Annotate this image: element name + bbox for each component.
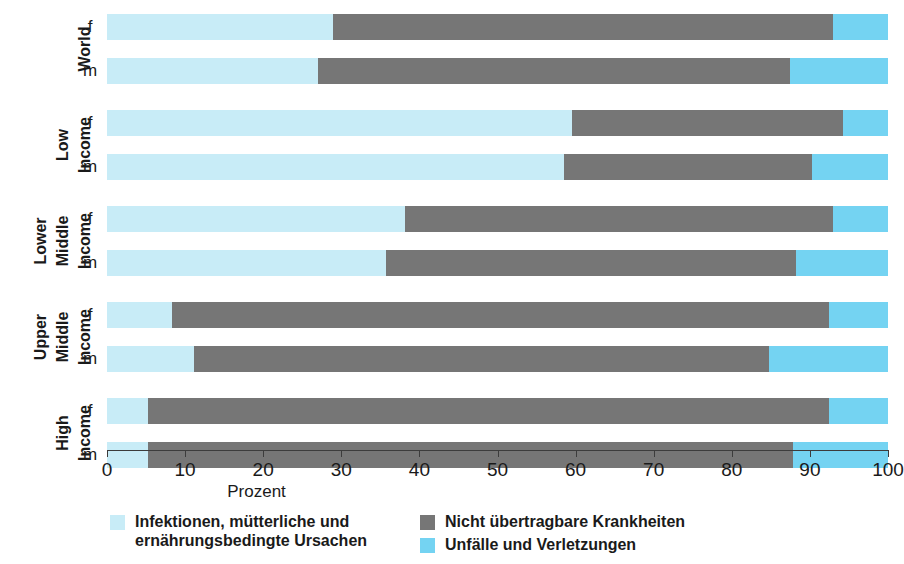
segment-infectious (107, 110, 572, 136)
segment-injuries (833, 206, 888, 232)
legend-item-injuries: Unfälle und Verletzungen (420, 535, 685, 554)
chart-legend: Infektionen, mütterliche und ernährungsb… (0, 512, 903, 564)
segment-infectious (107, 302, 172, 328)
x-tick (341, 450, 342, 457)
x-tick (263, 450, 264, 457)
group-label-line: Low (54, 95, 72, 195)
x-axis-title: Prozent (0, 482, 513, 502)
segment-injuries (843, 110, 888, 136)
x-tick (576, 450, 577, 457)
segment-noncommunicable (318, 58, 790, 84)
x-tick (419, 450, 420, 457)
segment-noncommunicable (148, 442, 792, 468)
bar-row (107, 14, 888, 40)
bar-row (107, 250, 888, 276)
segment-noncommunicable (564, 154, 812, 180)
x-tick-label: 50 (487, 459, 508, 481)
group-label-line: Lower (32, 191, 50, 291)
segment-infectious (107, 58, 318, 84)
legend-item-infectious-label: Infektionen, mütterliche und ernährungsb… (135, 512, 367, 550)
segment-infectious (107, 206, 405, 232)
x-tick-label: 0 (102, 459, 113, 481)
segment-injuries (796, 250, 888, 276)
plot-area (107, 6, 888, 450)
legend-item-infectious-swatch (110, 515, 125, 530)
segment-noncommunicable (386, 250, 796, 276)
segment-injuries (829, 302, 888, 328)
sex-label-f: f (80, 302, 100, 328)
segment-injuries (829, 398, 888, 424)
bar-row (107, 302, 888, 328)
segment-infectious (107, 398, 148, 424)
segment-infectious (107, 346, 194, 372)
legend-column-left: Infektionen, mütterliche und ernährungsb… (110, 512, 367, 554)
group-label-line: Middle (54, 191, 72, 291)
x-tick-label: 70 (643, 459, 664, 481)
sex-label-m: m (80, 250, 100, 276)
segment-noncommunicable (572, 110, 844, 136)
bar-row (107, 58, 888, 84)
legend-item-injuries-label: Unfälle und Verletzungen (445, 535, 636, 554)
legend-item-injuries-swatch (420, 538, 435, 553)
segment-infectious (107, 154, 564, 180)
x-tick (888, 450, 889, 457)
bar-row (107, 110, 888, 136)
sex-label-m: m (80, 346, 100, 372)
segment-injuries (833, 14, 888, 40)
bar-row (107, 346, 888, 372)
sex-label-f: f (80, 110, 100, 136)
x-tick (810, 450, 811, 457)
segment-noncommunicable (148, 398, 828, 424)
x-tick-label: 30 (331, 459, 352, 481)
x-tick (107, 450, 108, 457)
x-tick-label: 80 (721, 459, 742, 481)
x-tick (185, 450, 186, 457)
segment-injuries (790, 58, 888, 84)
segment-infectious (107, 442, 148, 468)
segment-noncommunicable (194, 346, 768, 372)
x-tick-label: 90 (799, 459, 820, 481)
bar-row (107, 206, 888, 232)
group-label-line: Upper (32, 287, 50, 387)
x-tick (732, 450, 733, 457)
legend-item-noncommunicable-label: Nicht übertragbare Krankheiten (445, 512, 685, 531)
legend-column-right: Nicht übertragbare KrankheitenUnfälle un… (420, 512, 685, 558)
sex-label-m: m (80, 442, 100, 468)
sex-label-f: f (80, 14, 100, 40)
x-tick-label: 20 (253, 459, 274, 481)
group-label-line: Middle (54, 287, 72, 387)
sex-label-m: m (80, 154, 100, 180)
x-tick-label: 10 (175, 459, 196, 481)
sex-label-m: m (80, 58, 100, 84)
x-tick (498, 450, 499, 457)
segment-injuries (812, 154, 888, 180)
segment-noncommunicable (333, 14, 832, 40)
segment-injuries (769, 346, 888, 372)
segment-infectious (107, 250, 386, 276)
legend-item-noncommunicable: Nicht übertragbare Krankheiten (420, 512, 685, 531)
x-tick-label: 40 (409, 459, 430, 481)
legend-item-noncommunicable-swatch (420, 515, 435, 530)
legend-item-infectious: Infektionen, mütterliche und ernährungsb… (110, 512, 367, 550)
bar-row (107, 154, 888, 180)
x-tick-label: 100 (872, 459, 904, 481)
segment-noncommunicable (405, 206, 832, 232)
group-label-line: High (54, 383, 72, 483)
segment-noncommunicable (172, 302, 830, 328)
bar-row (107, 398, 888, 424)
sex-label-f: f (80, 398, 100, 424)
segment-infectious (107, 14, 333, 40)
x-tick-label: 60 (565, 459, 586, 481)
sex-label-f: f (80, 206, 100, 232)
x-tick (654, 450, 655, 457)
